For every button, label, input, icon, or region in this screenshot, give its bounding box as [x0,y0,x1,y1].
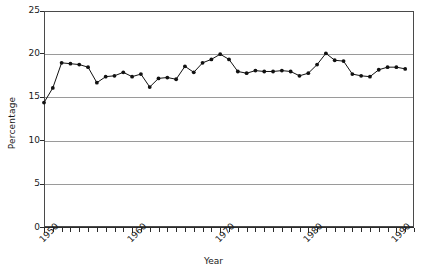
x-tick-1983 [335,228,336,232]
y-tick-label-15: 15 [14,92,40,101]
y-tick-label-10: 10 [14,136,40,145]
x-tick-1968 [203,228,204,232]
y-tick-label-0: 0 [14,223,40,232]
x-tick-1967 [194,228,195,232]
x-tick-1987 [370,228,371,232]
x-tick-1952 [62,228,63,232]
chart-root: Percentage 0 5 10 15 20 25 1950196019701… [0,0,427,272]
x-tick-1972 [238,228,239,232]
y-tick-label-20: 20 [14,49,40,58]
x-tick-1966 [185,228,186,232]
x-tick-1956 [97,228,98,232]
plot-area [44,11,414,227]
x-tick-1959 [123,228,124,232]
gridline-20 [45,54,413,55]
x-tick-1954 [79,228,80,232]
x-tick-1976 [273,228,274,232]
x-tick-1958 [115,228,116,232]
gridline-5 [45,184,413,185]
x-tick-1992 [414,228,415,232]
x-tick-1984 [344,228,345,232]
y-tick-label-25: 25 [14,6,40,15]
x-tick-1965 [176,228,177,232]
x-tick-1975 [264,228,265,232]
x-tick-1977 [282,228,283,232]
x-tick-label-1950: 1950 [38,222,61,245]
x-tick-1957 [106,228,107,232]
gridline-15 [45,97,413,98]
x-tick-1955 [88,228,89,232]
x-tick-1974 [255,228,256,232]
x-tick-1982 [326,228,327,232]
x-tick-1962 [150,228,151,232]
x-axis-title: Year [0,256,427,266]
x-tick-1963 [159,228,160,232]
x-tick-1988 [379,228,380,232]
x-tick-1985 [352,228,353,232]
x-tick-1953 [70,228,71,232]
x-tick-1979 [300,228,301,232]
x-tick-1964 [167,228,168,232]
gridline-10 [45,141,413,142]
y-tick-label-5: 5 [14,179,40,188]
x-tick-1978 [291,228,292,232]
x-tick-1969 [211,228,212,232]
x-tick-1986 [361,228,362,232]
x-tick-1989 [388,228,389,232]
x-tick-1973 [247,228,248,232]
